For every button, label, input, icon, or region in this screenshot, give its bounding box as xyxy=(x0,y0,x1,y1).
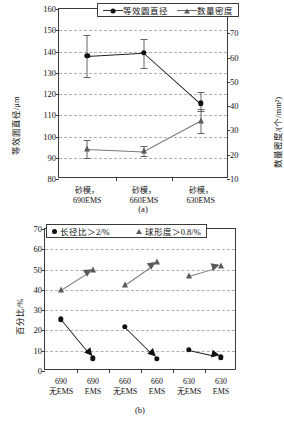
chart-a-legend-item: 数量密度 xyxy=(177,4,233,16)
legend-triangle-icon xyxy=(184,8,190,13)
chart-a-data-point-triangle xyxy=(84,145,90,151)
chart-b-x-tick xyxy=(77,369,80,373)
chart-a-y2-tick-label: 30 xyxy=(227,126,239,135)
chart-a-y-tick-label: 140 xyxy=(43,47,59,56)
chart-b-gridline xyxy=(45,351,235,352)
chart-b-x-axis-label: 630无EMS xyxy=(177,377,201,396)
chart-b-y-axis-title: 百分比/% xyxy=(13,299,25,335)
chart-b-y-tick-label: 20 xyxy=(34,326,46,335)
chart-b-x-tick xyxy=(109,369,112,373)
chart-b-x-tick xyxy=(141,369,144,373)
chart-a-legend-item: 等效圆直径 xyxy=(103,4,168,16)
chart-b-x-axis-label: 690EMS xyxy=(85,377,101,396)
chart-a-x-tick xyxy=(172,177,175,181)
legend-circle-icon xyxy=(52,229,57,234)
chart-a-error-cap xyxy=(197,109,204,110)
chart-a-caption: (a) xyxy=(138,204,147,214)
chart-b-legend-label: 长径比＞2/% xyxy=(60,225,110,237)
chart-b-legend-label: 球形度＞0.8/% xyxy=(145,225,201,237)
chart-panel-b: 百分比/% 010203040506070690无EMS690EMS660无EM… xyxy=(0,215,284,434)
chart-b-y-tick-label: 10 xyxy=(34,346,46,355)
chart-a-y-axis-title: 等效圆直径/μm xyxy=(9,96,21,155)
chart-b-y-tick-label: 30 xyxy=(34,306,46,315)
chart-a-y2-axis-title: 数量密度/(个/mm²) xyxy=(271,97,283,168)
chart-a-error-cap xyxy=(84,77,91,78)
chart-a-gridline xyxy=(59,30,227,31)
chart-a-gridline xyxy=(59,94,227,95)
chart-b-x-axis-label: 660EMS xyxy=(149,377,165,396)
chart-a-y-tick-label: 80 xyxy=(48,175,60,184)
chart-a-y2-tick-label: 40 xyxy=(227,102,239,111)
chart-b-x-tick xyxy=(173,369,176,373)
chart-a-y-tick-label: 100 xyxy=(43,132,59,141)
legend-triangle-icon xyxy=(136,229,142,234)
chart-a-x-axis-label: 砂模，630EMS xyxy=(186,186,214,205)
chart-a-legend-label: 等效圆直径 xyxy=(123,4,168,16)
chart-b-plot-area: 010203040506070690无EMS690EMS660无EMS660EM… xyxy=(44,228,236,370)
chart-a-y-tick-label: 120 xyxy=(43,90,59,99)
chart-a-data-point-triangle xyxy=(198,117,204,123)
chart-a-x-tick xyxy=(116,177,119,181)
chart-b-arrow-line xyxy=(61,274,87,291)
chart-a-error-cap xyxy=(141,68,148,69)
chart-b-arrow-line xyxy=(61,319,89,352)
chart-a-error-cap xyxy=(84,158,91,159)
chart-b-gridline xyxy=(45,330,235,331)
chart-b-x-axis-label: 660无EMS xyxy=(113,377,137,396)
figure-container: 等效圆直径/μm 数量密度/(个/mm²) 809010011012013014… xyxy=(0,0,284,434)
chart-a-legend-label: 数量密度 xyxy=(197,4,233,16)
chart-b-x-axis-label: 630EMS xyxy=(213,377,229,396)
chart-b-data-point-circle xyxy=(186,347,191,352)
chart-a-y2-tick-label: 70 xyxy=(227,29,239,38)
chart-a-error-cap xyxy=(84,35,91,36)
chart-b-legend-item: 球形度＞0.8/% xyxy=(136,225,201,237)
chart-a-x-axis-label: 砂模，690EMS xyxy=(73,186,101,205)
chart-b-legend: 长径比＞2/%球形度＞0.8/% xyxy=(46,224,207,238)
chart-a-legend: 等效圆直径数量密度 xyxy=(97,3,239,17)
chart-a-gridline xyxy=(59,137,227,138)
chart-a-error-cap xyxy=(84,140,91,141)
chart-b-data-point-triangle xyxy=(58,287,64,293)
chart-a-y2-tick-label: 60 xyxy=(227,53,239,62)
chart-a-y2-tick-label: 20 xyxy=(227,150,239,159)
chart-a-error-cap xyxy=(197,92,204,93)
chart-a-line-segment xyxy=(87,53,144,57)
chart-a-x-axis-label: 砂模，660EMS xyxy=(130,186,158,205)
chart-b-y-tick-label: 60 xyxy=(34,245,46,254)
chart-b-x-tick xyxy=(205,369,208,373)
chart-b-data-point-triangle xyxy=(186,272,192,278)
chart-b-legend-item: 长径比＞2/% xyxy=(52,225,110,237)
chart-a-data-point-circle xyxy=(198,100,203,105)
chart-a-data-point-triangle xyxy=(141,147,147,153)
chart-b-y-tick-label: 40 xyxy=(34,286,46,295)
chart-a-line-segment xyxy=(144,53,201,104)
chart-a-y-tick-label: 160 xyxy=(43,5,59,14)
chart-b-gridline xyxy=(45,310,235,311)
chart-b-gridline xyxy=(45,290,235,291)
chart-a-plot-area: 8090100110120130140150160102030405060708… xyxy=(58,8,228,178)
chart-a-y-tick-label: 150 xyxy=(43,26,59,35)
chart-b-y-tick-label: 0 xyxy=(38,367,45,376)
chart-b-caption: (b) xyxy=(135,405,145,415)
chart-b-x-axis-label: 690无EMS xyxy=(49,377,73,396)
chart-a-y-tick-label: 90 xyxy=(48,154,60,163)
chart-a-error-cap xyxy=(141,156,148,157)
chart-b-data-point-triangle xyxy=(122,281,128,287)
chart-b-gridline xyxy=(45,249,235,250)
legend-circle-icon xyxy=(111,8,116,13)
chart-a-y2-tick-label: 50 xyxy=(227,78,239,87)
chart-a-error-cap xyxy=(197,133,204,134)
chart-a-y2-tick-label: 10 xyxy=(227,175,239,184)
chart-a-legend-line xyxy=(177,10,197,11)
chart-a-y-tick-label: 110 xyxy=(44,111,59,120)
chart-b-y-tick-label: 50 xyxy=(34,265,46,274)
chart-a-legend-line xyxy=(103,10,123,11)
chart-a-error-cap xyxy=(141,39,148,40)
chart-a-gridline xyxy=(59,115,227,116)
chart-a-y-tick-label: 130 xyxy=(43,69,59,78)
chart-a-gridline xyxy=(59,73,227,74)
chart-b-y-tick-label: 70 xyxy=(34,225,46,234)
chart-a-line-segment xyxy=(87,149,144,152)
chart-a-data-point-circle xyxy=(85,53,90,58)
chart-panel-a: 等效圆直径/μm 数量密度/(个/mm²) 809010011012013014… xyxy=(0,0,284,215)
